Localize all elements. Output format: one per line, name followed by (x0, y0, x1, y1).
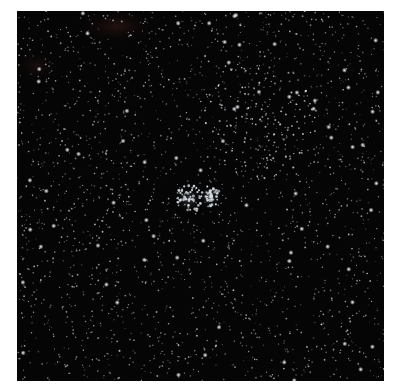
star-field-photo: Star field with double star cluster (17, 11, 384, 381)
star-field-canvas (17, 11, 384, 381)
